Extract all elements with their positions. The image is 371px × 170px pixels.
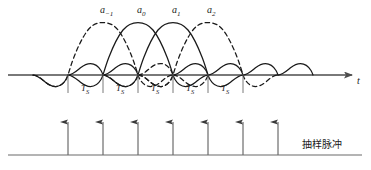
interval-label-ts-2: TS [116,84,124,95]
interval-label-ts-4: TS [186,84,194,95]
sampling-pulse-figure: a−1 a0 a1 a2 TS TS TS TS TS t 抽样脉冲 [0,0,371,170]
pulse-label-a-0: a0 [137,5,146,18]
pulse-label-a-2: a2 [207,5,216,18]
pulse-label-a-minus-1: a−1 [100,5,113,18]
time-axis-label: t [357,76,360,86]
sinc-tail-right [243,64,313,76]
pulse-label-a-1: a1 [172,5,181,18]
sampling-pulse-train [68,122,278,155]
sampling-pulse-caption: 抽样脉冲 [302,140,342,150]
interval-label-ts-5: TS [221,84,229,95]
interval-label-ts-3: TS [151,84,159,95]
interval-label-ts-1: TS [81,84,89,95]
